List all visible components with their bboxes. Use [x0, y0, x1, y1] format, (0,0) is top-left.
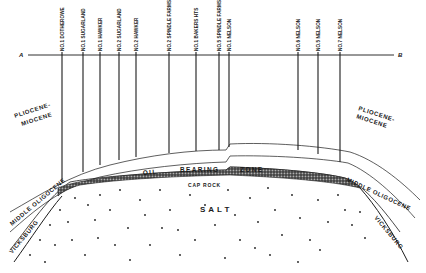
well-label: NO.2 SPINDLE FARMS — [167, 0, 172, 51]
oil-label: OIL — [143, 168, 158, 176]
upper-boundary-line — [10, 143, 420, 212]
well-label: NO.2 HAWKER — [134, 17, 139, 51]
well-label: NO.1 HAWKER — [98, 17, 103, 51]
well-label: NO.1 DOTHEROWE — [60, 7, 65, 51]
well: NO.2 SPINDLE FARMS — [167, 0, 172, 153]
well: NO.7 NELSON — [338, 18, 343, 162]
vicksburg-right-label: VICKSBURG — [373, 215, 404, 251]
endpoint-b-label: B — [398, 52, 403, 58]
cross-section-svg: A B — [0, 0, 426, 273]
well-label: NO.6 NELSON — [296, 18, 301, 51]
cap-rock-label: CAP ROCK — [188, 182, 221, 188]
well: NO.1 BAKERS HTS — [194, 8, 199, 151]
endpoint-a-label: A — [18, 52, 23, 58]
well-label: NO.1 SUGARLAND — [81, 8, 86, 51]
well: NO.2 HAWKER — [134, 17, 139, 157]
well: NO.2 SUGARLAND — [117, 8, 122, 160]
salt-label: SALT — [200, 205, 232, 214]
well: NO.1 NELSON — [227, 18, 232, 147]
well: NO.5 NELSON — [316, 18, 321, 154]
well-label: NO.2 SUGARLAND — [117, 8, 122, 51]
well-label: NO.1 NELSON — [227, 18, 232, 51]
geologic-cross-section: A B — [0, 0, 426, 273]
well: NO.6 NELSON — [296, 18, 301, 150]
well: NO.5 SPINDLE FARMS — [217, 0, 222, 150]
zone-label: ZONE — [240, 166, 263, 173]
well: NO.1 SUGARLAND — [81, 8, 86, 172]
well-label: NO.1 BAKERS HTS — [194, 8, 199, 51]
salt-dots — [29, 187, 366, 263]
well-label: NO.5 NELSON — [316, 18, 321, 51]
wells: NO.1 DOTHEROWENO.1 SUGARLANDNO.1 HAWKERN… — [60, 0, 343, 182]
well-label: NO.7 NELSON — [338, 18, 343, 51]
bearing-label: BEARING — [180, 166, 219, 173]
middle-oligocene-left-label: MIDDLE OLIGOCENE — [9, 177, 67, 227]
well: NO.1 HAWKER — [98, 17, 103, 165]
well-label: NO.5 SPINDLE FARMS — [217, 0, 222, 51]
well: NO.1 DOTHEROWE — [60, 7, 65, 182]
